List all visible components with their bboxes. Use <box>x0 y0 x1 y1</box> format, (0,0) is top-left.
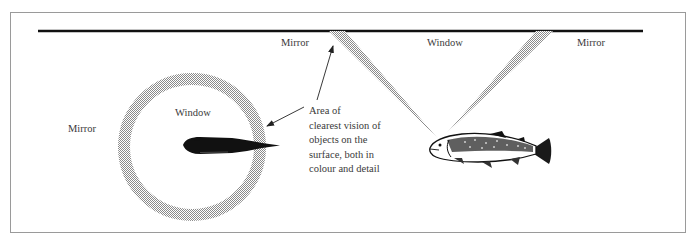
label-window-side-view: Window <box>427 38 463 49</box>
label-mirror-top-view: Mirror <box>68 124 96 135</box>
annotation-text: Area of clearest vision of objects on th… <box>309 104 381 177</box>
annotation-line: objects on the <box>309 133 381 148</box>
label-mirror-left: Mirror <box>281 38 309 49</box>
annotation-line: surface, both in <box>309 148 381 163</box>
label-window-top-view: Window <box>175 108 211 119</box>
annotation-arrow-to-cone <box>317 46 333 100</box>
annotation-arrow-to-ring <box>267 107 304 126</box>
annotation-line: clearest vision of <box>309 119 381 134</box>
annotation-line: Area of <box>309 104 381 119</box>
trout-side-view-icon <box>430 131 552 168</box>
annotation-line: colour and detail <box>309 162 381 177</box>
label-mirror-right: Mirror <box>577 38 605 49</box>
